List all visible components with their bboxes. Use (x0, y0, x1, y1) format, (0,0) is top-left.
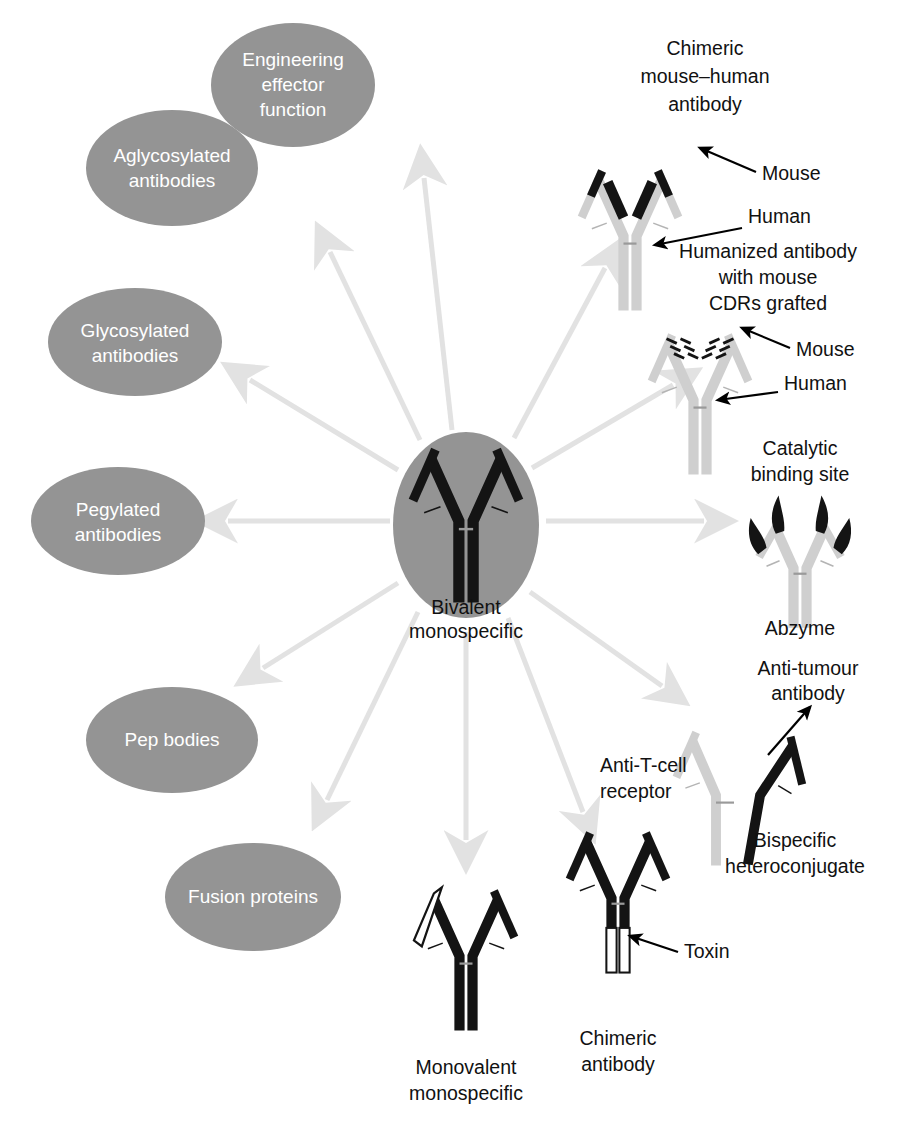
callout-mouse: Mouse (742, 328, 855, 360)
ellipse-label-line: antibodies (92, 345, 179, 366)
ellipse-label-line: function (260, 99, 327, 120)
callout-label: Human (784, 372, 847, 394)
ellipse-label-line: Pegylated (76, 499, 161, 520)
structure-bispecific-heteroconjugate[interactable]: Anti-tumour antibody Anti-T-cell recepto… (600, 657, 865, 877)
antibody-icon-monovalent (414, 887, 514, 1030)
arrow-to-chimeric-mouse-human-antibody (514, 268, 605, 438)
ellipse-shape (31, 467, 205, 575)
ellipse-shape (48, 288, 222, 396)
ellipse-node-fusion-proteins[interactable]: Fusion proteins (165, 843, 341, 951)
callout-label: Anti-T-cell (600, 754, 687, 776)
callout-label: Toxin (684, 940, 730, 962)
caption-line: Abzyme (765, 617, 835, 639)
callout-toxin: Toxin (630, 936, 730, 962)
ellipse-label-line: antibodies (75, 524, 162, 545)
caption-line: heteroconjugate (725, 855, 865, 877)
callout-label: Human (748, 205, 811, 227)
structure-chimeric-antibody-toxin[interactable]: Toxin Chimeric antibody (570, 833, 730, 1075)
antibody-icon-chimeric-toxin (570, 833, 667, 973)
structure-monovalent-monospecific[interactable]: Monovalent monospecific (409, 887, 523, 1104)
callout-label: Anti-tumour (758, 657, 859, 679)
ellipse-label-line: Aglycosylated (113, 145, 230, 166)
caption-line: antibody (581, 1053, 655, 1075)
ellipse-label-line: effector (261, 74, 325, 95)
callout-label: Catalytic (763, 437, 838, 459)
caption-line: Chimeric (580, 1027, 657, 1049)
caption-line: antibody (668, 93, 742, 115)
arrow-to-fusion-proteins (327, 612, 418, 800)
callout-label: binding site (751, 463, 850, 485)
ellipse-label-line: Engineering (242, 49, 343, 70)
arrow-to-glycosylated-antibodies (250, 380, 398, 470)
caption-line: Humanized antibody (679, 240, 857, 262)
callout-mouse: Mouse (700, 148, 821, 184)
center-caption-line1: Bivalent (431, 596, 501, 618)
ellipse-label-line: antibodies (129, 170, 216, 191)
ellipse-node-pegylated-antibodies[interactable]: Pegylated antibodies (31, 467, 205, 575)
callout-label: Mouse (762, 162, 821, 184)
center-ellipse-shape (393, 432, 539, 618)
callout-human: Human (718, 372, 847, 400)
ellipse-node-aglycosylated-antibodies[interactable]: Aglycosylated antibodies (86, 110, 258, 226)
caption-line: with mouse (718, 266, 818, 288)
toxin-block (606, 928, 616, 973)
half-antibody-anti-t-cell-receptor (676, 732, 734, 865)
ellipse-node-engineering-effector-function[interactable]: Engineering effector function (211, 23, 375, 147)
toxin-block (619, 928, 629, 973)
structure-abzyme[interactable]: Catalytic binding site Abzyme (749, 437, 851, 639)
ellipse-node-glycosylated-antibodies[interactable]: Glycosylated antibodies (48, 288, 222, 396)
ellipse-label-line: Pep bodies (124, 729, 219, 750)
caption-line: Chimeric (667, 37, 744, 59)
caption-line: monospecific (409, 1082, 523, 1104)
arrow-to-humanized-antibody (532, 385, 673, 468)
callout-label: receptor (600, 780, 672, 802)
arrow-to-pep-bodies (263, 583, 398, 668)
center-node-bivalent-monospecific[interactable]: Bivalent monospecific (393, 432, 539, 642)
callout-label: antibody (771, 682, 845, 704)
antibody-icon-humanized (652, 335, 749, 475)
ellipse-label-line: Glycosylated (81, 320, 190, 341)
ellipse-label-line: Fusion proteins (188, 886, 318, 907)
arrow-to-chimeric-antibody-toxin (508, 618, 583, 812)
ellipse-node-pep-bodies[interactable]: Pep bodies (86, 687, 258, 793)
arrow-to-engineering-effector-function (424, 178, 452, 430)
caption-line: CDRs grafted (709, 292, 827, 314)
antibody-icon-abzyme (749, 496, 851, 628)
caption-line: Bispecific (754, 829, 837, 851)
ellipse-shape (86, 110, 258, 226)
callout-anti-t-cell-receptor: Anti-T-cell receptor (600, 754, 687, 802)
arrow-to-bispecific-heteroconjugate (530, 592, 662, 686)
center-caption-line2: monospecific (409, 620, 523, 642)
arrow-to-aglycosylated-antibodies (330, 252, 420, 440)
caption-line: Monovalent (416, 1056, 517, 1078)
antibody-engineering-diagram: Engineering effector function Aglycosyla… (0, 0, 908, 1125)
caption-line: mouse–human (641, 65, 770, 87)
callout-label: Mouse (796, 338, 855, 360)
